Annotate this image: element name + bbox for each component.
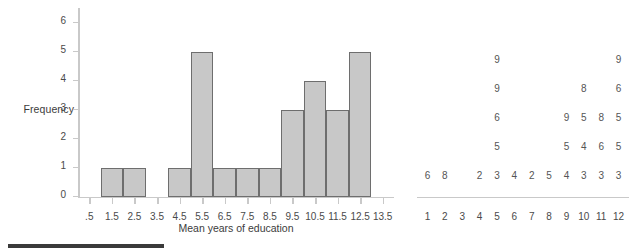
histogram-y-tick-label: 4 [60, 73, 66, 84]
histogram-bar [326, 110, 349, 197]
digit-dotplot-x-tick-label: 8 [546, 211, 552, 222]
histogram-y-tick-label: 0 [60, 189, 66, 200]
digit-dotplot-value: 5 [616, 113, 622, 123]
histogram-bar [191, 52, 214, 197]
histogram-y-axis-line [78, 8, 80, 198]
histogram-bar [213, 168, 236, 197]
digit-dotplot-x-tick-label: 2 [442, 211, 448, 222]
digit-dotplot-value: 8 [581, 84, 587, 94]
digit-dotplot-value: 6 [616, 84, 622, 94]
digit-dotplot-value: 2 [529, 171, 535, 181]
histogram-x-tick [270, 198, 272, 204]
histogram-x-tick [315, 198, 317, 204]
digit-dotplot-value: 6 [494, 113, 500, 123]
digit-dotplot-x-tick-label: 9 [564, 211, 570, 222]
histogram-bar [349, 52, 372, 197]
digit-dotplot-x-tick-label: 4 [477, 211, 483, 222]
histogram-x-tick-label: 8.5 [263, 211, 277, 222]
histogram-plot-area: 0123456 .51.52.53.54.55.56.57.58.59.510.… [78, 8, 394, 205]
histogram-x-tick [225, 198, 227, 204]
histogram-x-tick [157, 198, 159, 204]
histogram-x-tick [360, 198, 362, 204]
digit-dotplot-x-tick-label: 3 [459, 211, 465, 222]
histogram-y-tick: 5 [73, 51, 78, 53]
digit-dotplot-value: 3 [494, 171, 500, 181]
histogram-y-tick-label: 2 [60, 131, 66, 142]
histogram-x-tick-label: 9.5 [285, 211, 299, 222]
digit-dotplot-panel: 68235699425459345836835569 1234567891011… [400, 0, 636, 240]
histogram-x-tick-label: 6.5 [218, 211, 232, 222]
histogram-x-tick-label: 5.5 [195, 211, 209, 222]
digit-dotplot-value: 5 [616, 142, 622, 152]
histogram-x-tick [338, 198, 340, 204]
digit-dotplot-value: 4 [512, 171, 518, 181]
histogram-x-tick [202, 198, 204, 204]
figure-canvas: Frequency 0123456 .51.52.53.54.55.56.57.… [0, 0, 636, 252]
digit-dotplot-value: 6 [598, 142, 604, 152]
histogram-x-tick-label: 4.5 [173, 211, 187, 222]
digit-dotplot-value: 4 [581, 142, 587, 152]
histogram-bar [304, 81, 327, 197]
histogram-x-axis-title: Mean years of education [78, 222, 394, 234]
histogram-x-tick-label: 7.5 [240, 211, 254, 222]
histogram-bar [259, 168, 282, 197]
digit-dotplot-value: 5 [546, 171, 552, 181]
digit-dotplot-value: 5 [581, 113, 587, 123]
histogram-x-tick-label: 1.5 [105, 211, 119, 222]
histogram-y-tick: 4 [73, 80, 78, 82]
histogram-x-tick [247, 198, 249, 204]
histogram-x-tick-label: 10.5 [305, 211, 324, 222]
digit-dotplot-value: 9 [494, 84, 500, 94]
digit-dotplot-value: 5 [494, 142, 500, 152]
digit-dotplot-x-tick-label: 12 [613, 211, 624, 222]
digit-dotplot-value: 3 [616, 171, 622, 181]
digit-dotplot-value: 8 [598, 113, 604, 123]
digit-dotplot-value: 9 [616, 55, 622, 65]
histogram-x-tick [383, 198, 385, 204]
histogram-y-tick: 6 [73, 22, 78, 24]
digit-dotplot-plot-area: 68235699425459345836835569 1234567891011… [408, 8, 632, 205]
histogram-y-tick-label: 5 [60, 44, 66, 55]
histogram-bar [123, 168, 146, 197]
histogram-y-tick: 0 [73, 196, 78, 198]
digit-dotplot-value: 3 [581, 171, 587, 181]
histogram-x-tick-label: 12.5 [350, 211, 369, 222]
digit-dotplot-value: 8 [442, 171, 448, 181]
histogram-bar [101, 168, 124, 197]
digit-dotplot-x-tick-label: 6 [512, 211, 518, 222]
histogram-x-tick-label: .5 [85, 211, 93, 222]
histogram-y-tick: 2 [73, 138, 78, 140]
histogram-x-tick [134, 198, 136, 204]
digit-dotplot-value: 9 [564, 113, 570, 123]
digit-dotplot-x-tick-label: 11 [596, 211, 606, 222]
histogram-x-tick [89, 198, 91, 204]
caption-rule [8, 244, 164, 248]
histogram-bar [168, 168, 191, 197]
histogram-bar [281, 110, 304, 197]
histogram-bar [236, 168, 259, 197]
histogram-x-tick [180, 198, 182, 204]
histogram-y-tick: 1 [73, 167, 78, 169]
digit-dotplot-value: 4 [564, 171, 570, 181]
histogram-x-tick-label: 2.5 [127, 211, 141, 222]
digit-dotplot-value: 2 [477, 171, 483, 181]
digit-dotplot-x-axis-line [417, 197, 629, 199]
histogram-x-tick [112, 198, 114, 204]
digit-dotplot-x-tick-label: 1 [425, 211, 431, 222]
histogram-y-tick-label: 3 [60, 102, 66, 113]
digit-dotplot-value: 3 [598, 171, 604, 181]
histogram-x-tick [292, 198, 294, 204]
digit-dotplot-x-tick-label: 7 [529, 211, 535, 222]
histogram-x-tick-label: 11.5 [328, 211, 347, 222]
histogram-panel: Frequency 0123456 .51.52.53.54.55.56.57.… [0, 0, 410, 240]
digit-dotplot-value: 9 [494, 55, 500, 65]
digit-dotplot-value: 6 [425, 171, 431, 181]
histogram-x-tick-label: 3.5 [150, 211, 164, 222]
histogram-y-tick: 3 [73, 109, 78, 111]
digit-dotplot-x-tick-label: 10 [578, 211, 589, 222]
digit-dotplot-x-tick-label: 5 [494, 211, 500, 222]
histogram-y-tick-label: 6 [60, 15, 66, 26]
histogram-y-tick-label: 1 [60, 160, 66, 171]
digit-dotplot-value: 5 [564, 142, 570, 152]
histogram-x-tick-label: 13.5 [373, 211, 392, 222]
